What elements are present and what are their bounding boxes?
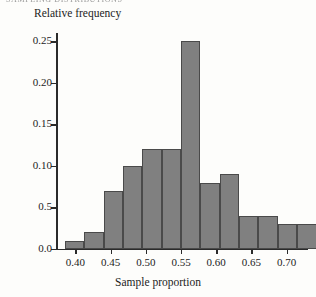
y-axis-tick-label: 0.20	[33, 76, 52, 88]
x-axis-tick-mark	[181, 249, 182, 254]
x-axis-tick-label: 0.55	[171, 256, 190, 268]
y-axis-tick-label: 0.25	[33, 34, 52, 46]
x-axis-tick-mark	[287, 249, 288, 254]
y-axis-tick-label: 0.10	[33, 159, 52, 171]
x-axis-tick-label: 0.50	[136, 256, 155, 268]
histogram-bar	[278, 224, 297, 249]
x-axis-tick-mark	[111, 249, 112, 254]
y-axis-tick-label: 0.15	[33, 117, 52, 129]
x-axis-tick-mark	[146, 249, 147, 254]
histogram-bar	[84, 232, 103, 249]
histogram-bar	[104, 191, 123, 249]
histogram-bar	[297, 224, 316, 249]
x-axis-tick-mark	[251, 249, 252, 254]
histogram-bar	[200, 183, 219, 249]
y-axis-label: Relative frequency	[34, 7, 121, 19]
x-axis-tick-label: 0.70	[277, 256, 296, 268]
y-axis-tick-label: 0.0	[38, 242, 52, 254]
histogram-bar	[123, 166, 142, 249]
x-axis-tick-label: 0.65	[242, 256, 261, 268]
histogram-bar	[181, 41, 200, 249]
histogram-bar	[162, 149, 181, 249]
x-axis-tick-mark	[75, 249, 76, 254]
x-axis-tick-label: 0.45	[101, 256, 120, 268]
x-axis-label: Sample proportion	[0, 276, 316, 288]
histogram-bar	[239, 216, 258, 249]
x-axis-tick-mark	[216, 249, 217, 254]
histogram-bar	[142, 149, 161, 249]
histogram-bar	[65, 241, 84, 249]
x-axis-tick-label: 0.60	[207, 256, 226, 268]
histogram-bar	[258, 216, 277, 249]
plot-area: 0.00.50.100.150.200.250.400.450.500.550.…	[56, 33, 306, 249]
histogram-chart: Relative frequency 0.00.50.100.150.200.2…	[0, 0, 316, 297]
histogram-bar	[220, 174, 239, 249]
x-axis-tick-label: 0.40	[66, 256, 85, 268]
y-axis-tick-label: 0.5	[38, 200, 52, 212]
